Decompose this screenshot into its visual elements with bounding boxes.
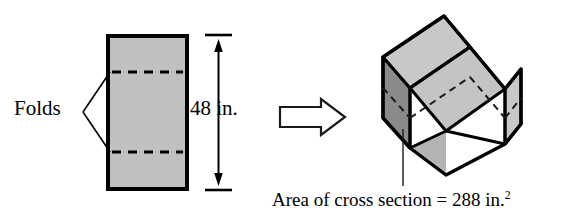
- figure-graphics: [0, 0, 570, 219]
- right-arrow-icon: [280, 99, 345, 135]
- folds-label: Folds: [14, 98, 61, 119]
- dimension-arrowhead-up: [214, 39, 223, 52]
- sheet-metal-folding-figure: Folds 48 in. Area of cross section = 288…: [0, 0, 570, 219]
- dimension-label: 48 in.: [190, 98, 238, 119]
- dimension-arrowhead-down: [214, 173, 223, 186]
- rectangular-sheet: [108, 36, 187, 189]
- folds-leader-lower: [83, 112, 110, 152]
- folds-leader-group: [83, 72, 110, 152]
- folds-leader-upper: [83, 72, 110, 112]
- cross-section-area-caption: Area of cross section = 288 in.2: [272, 190, 511, 209]
- caption-text: Area of cross section = 288 in.: [272, 189, 505, 210]
- caption-exponent: 2: [505, 189, 511, 202]
- u-channel-group: [383, 16, 521, 175]
- flat-sheet-group: [108, 36, 187, 189]
